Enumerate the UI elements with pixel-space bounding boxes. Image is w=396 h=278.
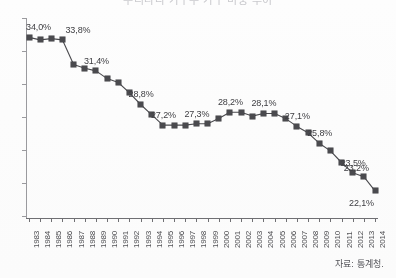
data-point-marker [49,36,54,41]
x-axis-label: 2003 [255,231,264,248]
x-axis-label: 2013 [367,231,376,248]
data-point-marker [71,62,76,67]
data-point-marker [38,37,43,42]
chart-title-text: 우리나라 가구주 가구 비중 추이 [0,0,396,7]
x-axis-label: 2012 [356,231,365,248]
x-axis-label: 1999 [211,231,220,248]
data-point-marker [60,37,65,42]
x-axis-label: 1985 [54,231,63,248]
plot-area: 34,0%33,8%31,4%28,8%27,2%27,3%28,2%28,1%… [26,18,378,218]
x-axis-label: 2004 [266,231,275,248]
chart-page: 우리나라 가구주 가구 비중 추이 34,0%33,8%31,4%28,8%27… [0,0,396,278]
x-axis-label: 2009 [322,231,331,248]
x-axis-label: 1994 [155,231,164,248]
data-point-marker [160,123,165,128]
x-axis-label: 1993 [144,231,153,248]
data-value-label: 31,4% [84,56,109,66]
x-axis-label: 2007 [300,231,309,248]
x-axis-label: 2011 [345,232,354,248]
x-axis-label: 1989 [99,231,108,248]
data-point-marker [373,188,378,193]
data-value-label: 27,3% [184,109,209,119]
data-point-marker [105,76,110,81]
x-axis-label: 2000 [222,231,231,248]
data-point-marker [93,68,98,73]
data-value-label: 27,2% [151,110,176,120]
data-point-marker [317,141,322,146]
data-value-label: 25,8% [307,128,332,138]
x-axis-label: 1995 [166,231,175,248]
data-value-label: 23,2% [344,163,369,173]
x-axis-label: 1986 [65,231,74,248]
x-axis-label: 1996 [177,231,186,248]
data-point-marker [261,111,266,116]
data-point-marker [250,114,255,119]
data-point-marker [361,174,366,179]
data-point-marker [272,111,277,116]
data-value-label: 27,1% [285,111,310,121]
data-point-marker [138,102,143,107]
data-value-label: 28,1% [251,98,276,108]
x-axis-label: 1983 [32,231,41,248]
x-axis-label: 2005 [278,231,287,248]
x-axis-label: 1987 [77,231,86,248]
x-axis-labels: 1983198419851986198719881989199019911992… [26,222,378,256]
data-point-marker [27,35,32,40]
x-axis-label: 1998 [199,231,208,248]
data-value-label: 28,8% [129,89,154,99]
data-point-marker [328,148,333,153]
data-point-marker [194,121,199,126]
x-axis-label: 1988 [88,231,97,248]
data-point-marker [183,123,188,128]
x-axis-label: 1997 [188,231,197,248]
x-axis-label: 1984 [43,231,52,248]
data-point-marker [205,121,210,126]
x-axis-label: 2008 [311,231,320,248]
data-point-marker [216,116,221,121]
x-axis-label: 1992 [132,231,141,248]
data-value-label: 22,1% [349,198,374,208]
data-point-marker [82,66,87,71]
x-axis-label: 2014 [378,231,387,248]
data-value-label: 34,0% [26,22,51,32]
x-axis-label: 2006 [289,231,298,248]
data-point-marker [172,123,177,128]
x-axis-label: 1990 [110,231,119,248]
data-point-marker [239,110,244,115]
data-point-marker [116,80,121,85]
data-point-marker [227,110,232,115]
data-point-marker [294,124,299,129]
x-axis-label: 1991 [121,231,130,248]
x-axis-line [26,218,378,219]
x-axis-label: 2010 [333,231,342,248]
source-note: 자료: 통계청. [335,257,384,270]
x-axis-label: 2001 [233,231,242,248]
data-value-label: 28,2% [218,97,243,107]
chart-title-cropped: 우리나라 가구주 가구 비중 추이 [0,0,396,7]
data-value-label: 33,8% [65,25,90,35]
x-axis-label: 2002 [244,231,253,248]
